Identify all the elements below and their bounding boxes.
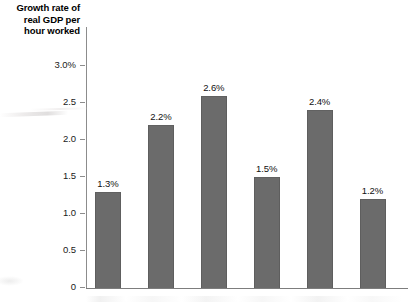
scan-artifact-smudge xyxy=(0,276,24,286)
bar-chart: Growth rate of real GDP per hour worked … xyxy=(0,0,415,302)
bar xyxy=(201,96,227,288)
y-axis-tick-label: 2.5 xyxy=(0,96,76,107)
y-axis-tick-label: 1.0 xyxy=(0,207,76,218)
bar-group: 2.6% xyxy=(201,27,227,288)
y-axis-tick-mark xyxy=(80,65,85,66)
bar-value-label: 2.2% xyxy=(137,111,185,122)
bar xyxy=(360,199,386,288)
bar-group: 1.5% xyxy=(254,27,280,288)
y-axis-tick-label: 3.0% xyxy=(0,59,76,70)
bar-group: 2.4% xyxy=(307,27,333,288)
bar xyxy=(95,192,121,288)
y-axis-tick-mark xyxy=(80,102,85,103)
y-axis-tick-label: 1.5 xyxy=(0,170,76,181)
bar xyxy=(307,110,333,288)
plot-area: 1.3%2.2%2.6%1.5%2.4%1.2% xyxy=(86,27,408,288)
bar-value-label: 2.6% xyxy=(190,82,238,93)
bar-value-label: 1.3% xyxy=(84,178,132,189)
bar-value-label: 2.4% xyxy=(296,96,344,107)
x-axis-line xyxy=(86,288,408,289)
bar-group: 2.2% xyxy=(148,27,174,288)
y-axis-tick-mark xyxy=(80,250,85,251)
cropped-x-axis-labels-remnant xyxy=(86,296,408,302)
bar-group: 1.3% xyxy=(95,27,121,288)
y-axis-tick-mark xyxy=(80,139,85,140)
bar-value-label: 1.5% xyxy=(243,163,291,174)
bar xyxy=(148,125,174,288)
y-axis-tick-layer: 3.0%2.52.01.51.00.50 xyxy=(0,0,86,302)
y-axis-tick-mark xyxy=(80,287,85,288)
bar-group: 1.2% xyxy=(360,27,386,288)
y-axis-tick-label: 0.5 xyxy=(0,244,76,255)
bar-value-label: 1.2% xyxy=(349,185,397,196)
y-axis-tick-label: 2.0 xyxy=(0,133,76,144)
bar xyxy=(254,177,280,288)
y-axis-tick-mark xyxy=(80,213,85,214)
